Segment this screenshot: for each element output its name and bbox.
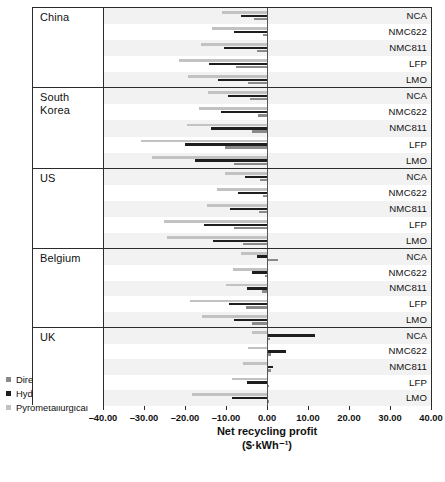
bar-pyro-nca: [208, 91, 267, 94]
plot-area: NCANMC622NMC811LFPLMO: [104, 169, 431, 248]
bar-pyro-lfp: [232, 378, 267, 381]
x-tick-label: 40.00: [419, 412, 442, 423]
category-label-nmc622: NMC622: [389, 345, 427, 356]
bar-hydro-nmc811: [211, 127, 267, 130]
x-tick-label: 0.00: [258, 412, 276, 423]
category-label-nmc811: NMC811: [389, 122, 427, 133]
country-cell-uk: UK: [33, 328, 104, 406]
bar-pyro-nmc622: [233, 268, 267, 271]
bar-direct-lfp: [236, 66, 267, 69]
bar-pyro-nmc622: [248, 347, 267, 350]
bar-pyro-nmc622: [199, 107, 267, 110]
bar-pyro-lmo: [167, 236, 267, 239]
country-label: UK: [40, 331, 55, 344]
legend-swatch-pyro-icon: [6, 405, 11, 410]
bar-direct-lfp: [225, 146, 267, 149]
category-label-nmc811: NMC811: [389, 203, 427, 214]
bar-direct-nca: [254, 18, 267, 21]
category-label-lmo: LMO: [406, 314, 427, 325]
panel-uk: UKNCANMC622NMC811LFPLMO: [33, 328, 431, 406]
x-tick-label: 20.00: [337, 412, 360, 423]
country-label: China: [40, 11, 69, 24]
x-axis-title: Net recycling profit ($·kWh⁻¹): [103, 424, 431, 452]
category-label-nmc622: NMC622: [389, 187, 427, 198]
panel-stack: ChinaNCANMC622NMC811LFPLMOSouth KoreaNCA…: [32, 7, 432, 405]
x-tick-label: –10.00: [212, 412, 241, 423]
bar-hydro-lmo: [195, 159, 267, 162]
zero-line: [267, 328, 268, 406]
bar-direct-nmc811: [252, 130, 267, 133]
plot-area: NCANMC622NMC811LFPLMO: [104, 88, 431, 168]
legend-swatch-direct-icon: [6, 377, 11, 382]
bar-hydro-nca: [267, 334, 315, 337]
bar-direct-lmo: [243, 243, 267, 246]
plot-area: NCANMC622NMC811LFPLMO: [104, 249, 431, 327]
bar-pyro-nmc811: [187, 124, 267, 127]
bar-pyro-nmc811: [243, 362, 267, 365]
category-label-nmc622: NMC622: [389, 267, 427, 278]
bar-pyro-lfp: [190, 300, 267, 303]
bar-hydro-nmc811: [230, 208, 267, 211]
category-label-nmc811: NMC811: [389, 42, 427, 53]
panel-us: USNCANMC622NMC811LFPLMO: [33, 169, 431, 249]
category-label-nca: NCA: [406, 90, 427, 101]
country-cell-china: China: [33, 8, 104, 87]
bar-pyro-lmo: [192, 393, 267, 396]
bar-pyro-nca: [252, 331, 267, 334]
category-label-lfp: LFP: [409, 298, 427, 309]
bar-hydro-lfp: [209, 63, 267, 66]
x-tick-label: 30.00: [378, 412, 401, 423]
bar-pyro-nca: [222, 11, 267, 14]
bar-hydro-lfp: [185, 143, 267, 146]
bar-hydro-lmo: [213, 240, 267, 243]
bar-pyro-nca: [225, 172, 267, 175]
bar-pyro-nmc811: [226, 284, 267, 287]
category-label-lfp: LFP: [409, 219, 427, 230]
panel-south-korea: South KoreaNCANMC622NMC811LFPLMO: [33, 88, 431, 169]
bar-hydro-lmo: [232, 397, 267, 400]
bar-pyro-lmo: [188, 75, 267, 78]
net-recycling-profit-chart: ChinaNCANMC622NMC811LFPLMOSouth KoreaNCA…: [0, 0, 445, 482]
bar-pyro-nmc811: [201, 43, 267, 46]
bar-pyro-lmo: [202, 315, 267, 318]
country-cell-belgium: Belgium: [33, 249, 104, 327]
bar-direct-nca: [250, 98, 267, 101]
country-label: US: [40, 172, 55, 185]
bar-direct-lmo: [234, 163, 267, 166]
category-label-lfp: LFP: [409, 139, 427, 150]
bar-hydro-nca: [228, 95, 267, 98]
bar-hydro-lfp: [247, 381, 267, 384]
bar-direct-nca: [267, 259, 278, 262]
bar-hydro-lfp: [229, 303, 267, 306]
bar-direct-nca: [260, 179, 267, 182]
panel-belgium: BelgiumNCANMC622NMC811LFPLMO: [33, 249, 431, 328]
country-label: South Korea: [40, 91, 70, 116]
x-axis-title-text: Net recycling profit: [217, 425, 317, 437]
bar-pyro-nmc811: [207, 204, 267, 207]
category-label-nmc622: NMC622: [389, 106, 427, 117]
panel-china: ChinaNCANMC622NMC811LFPLMO: [33, 8, 431, 88]
x-tick-label: –20.00: [171, 412, 200, 423]
zero-line: [267, 249, 268, 327]
bar-hydro-lfp: [204, 224, 267, 227]
bar-pyro-lmo: [152, 156, 267, 159]
bar-direct-nmc622: [258, 114, 267, 117]
bar-pyro-lfp: [141, 140, 267, 143]
x-tick: [431, 405, 432, 410]
bar-hydro-nca: [257, 255, 267, 258]
bar-direct-lfp: [234, 227, 267, 230]
bar-direct-nmc811: [259, 211, 267, 214]
category-label-nca: NCA: [406, 330, 427, 341]
country-cell-south-korea: South Korea: [33, 88, 104, 168]
category-label-lmo: LMO: [406, 155, 427, 166]
category-label-lfp: LFP: [409, 377, 427, 388]
bar-direct-lfp: [246, 306, 267, 309]
x-axis-unit-text: ($·kWh⁻¹): [103, 438, 431, 452]
plot-area: NCANMC622NMC811LFPLMO: [104, 328, 431, 406]
category-label-nca: NCA: [406, 171, 427, 182]
zero-line: [267, 8, 268, 87]
legend-swatch-hydro-icon: [6, 391, 11, 396]
bar-pyro-nmc622: [212, 27, 267, 30]
bar-hydro-nmc622: [238, 192, 267, 195]
bar-pyro-lfp: [164, 220, 267, 223]
